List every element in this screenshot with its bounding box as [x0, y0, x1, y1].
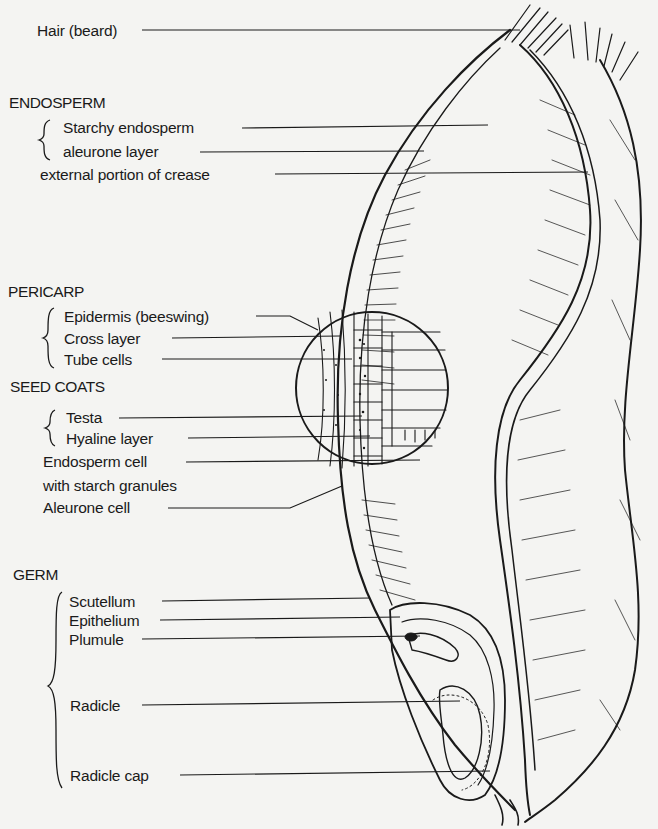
leader-starchy-endosperm: [242, 125, 488, 128]
leader-endosperm-cell: [186, 460, 420, 462]
leader-scutellum: [162, 598, 370, 601]
leader-aleurone-layer: [200, 151, 424, 152]
label-radicle: Radicle: [70, 697, 120, 715]
label-crease: external portion of crease: [40, 166, 210, 184]
label-aleurone-layer: aleurone layer: [63, 143, 158, 161]
leader-epithelium: [160, 617, 400, 620]
label-epithelium: Epithelium: [69, 612, 139, 630]
leader-epidermis: [256, 316, 318, 330]
crease-outline: [495, 45, 590, 815]
leader-aleurone-cell: [168, 486, 342, 508]
label-radicle-cap: Radicle cap: [70, 767, 149, 785]
section-germ: GERM: [13, 566, 58, 584]
brace-germ: [48, 592, 62, 788]
label-scutellum: Scutellum: [69, 593, 135, 611]
label-cross-layer: Cross layer: [64, 330, 140, 348]
section-seed-coats: SEED COATS: [10, 378, 105, 396]
label-hyaline-layer: Hyaline layer: [66, 430, 153, 448]
brace-pericarp: [43, 308, 54, 368]
label-epidermis: Epidermis (beeswing): [64, 308, 209, 326]
label-plumule: Plumule: [69, 631, 124, 649]
label-tube-cells: Tube cells: [64, 351, 132, 369]
label-testa: Testa: [66, 409, 102, 427]
label-starchy-endosperm: Starchy endosperm: [63, 119, 194, 137]
leader-radicle-cap: [180, 771, 490, 775]
label-endosperm-cell-line2: with starch granules: [43, 477, 177, 495]
section-endosperm: ENDOSPERM: [9, 94, 105, 112]
label-aleurone-cell: Aleurone cell: [43, 499, 130, 517]
label-endosperm-cell: Endosperm cell: [43, 453, 147, 471]
brace-endosperm: [39, 120, 50, 160]
leader-testa: [119, 416, 362, 418]
brace-seed-coats: [45, 410, 55, 446]
label-hair: Hair (beard): [37, 22, 117, 40]
leader-radicle: [142, 701, 460, 705]
leader-plumule: [142, 636, 420, 639]
leader-hyaline: [188, 436, 370, 438]
leader-crease: [275, 172, 588, 174]
magnified-detail-circle: [296, 312, 448, 464]
section-pericarp: PERICARP: [8, 283, 84, 301]
grain-back-outline: [525, 60, 641, 822]
